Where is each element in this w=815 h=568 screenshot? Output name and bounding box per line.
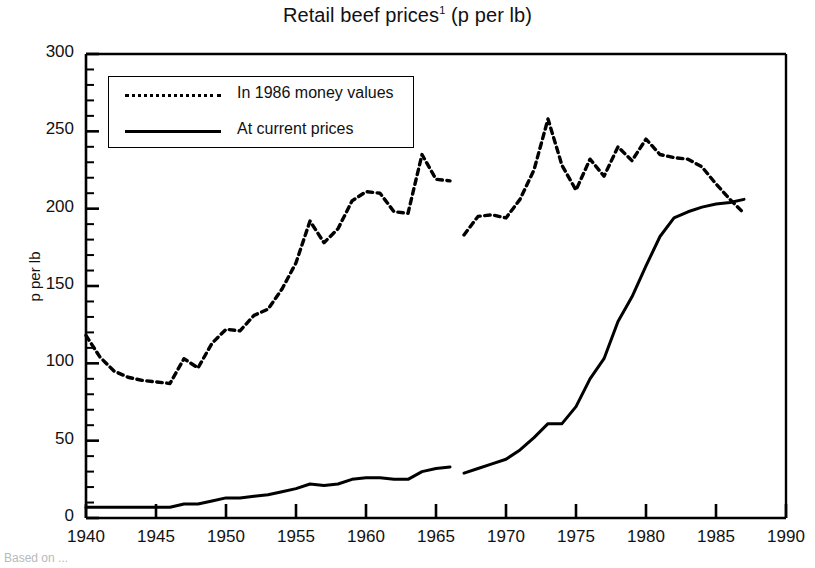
x-tick-label-1955: 1955 <box>261 527 331 547</box>
x-tick-label-1975: 1975 <box>541 527 611 547</box>
y-axis-ticks <box>86 54 99 518</box>
x-tick-label-1965: 1965 <box>401 527 471 547</box>
chart-title: Retail beef prices1 (p per lb) <box>0 4 815 27</box>
chart-legend: In 1986 money values At current prices <box>108 76 414 148</box>
series-0-segment-0 <box>86 155 450 384</box>
legend-label-1: At current prices <box>237 120 353 138</box>
footnote-text: Based on ... <box>4 551 68 565</box>
legend-swatch-dashed <box>125 94 221 97</box>
x-tick-label-1950: 1950 <box>191 527 261 547</box>
legend-label-0: In 1986 money values <box>237 84 394 102</box>
y-tick-label-50: 50 <box>6 429 74 449</box>
x-tick-label-1990: 1990 <box>751 527 815 547</box>
x-axis-ticks <box>86 504 786 518</box>
x-tick-label-1970: 1970 <box>471 527 541 547</box>
y-tick-label-0: 0 <box>6 506 74 526</box>
y-tick-label-250: 250 <box>6 119 74 139</box>
chart-title-main: Retail beef prices <box>283 4 439 26</box>
x-tick-label-1980: 1980 <box>611 527 681 547</box>
x-tick-label-1960: 1960 <box>331 527 401 547</box>
y-tick-label-100: 100 <box>6 351 74 371</box>
chart-title-suffix: (p per lb) <box>445 4 532 26</box>
legend-item-1: At current prices <box>109 113 413 149</box>
legend-swatch-solid <box>125 130 221 133</box>
series-0-segment-1 <box>464 119 744 235</box>
x-tick-label-1945: 1945 <box>121 527 191 547</box>
chart-figure: Retail beef prices1 (p per lb) p per lb … <box>0 0 815 568</box>
y-tick-label-300: 300 <box>6 42 74 62</box>
y-tick-label-150: 150 <box>6 274 74 294</box>
data-series-layer <box>86 119 744 507</box>
series-1-segment-1 <box>464 199 744 473</box>
series-1-segment-0 <box>86 467 450 507</box>
legend-item-0: In 1986 money values <box>109 77 413 113</box>
y-tick-label-200: 200 <box>6 197 74 217</box>
x-tick-label-1940: 1940 <box>51 527 121 547</box>
x-tick-label-1985: 1985 <box>681 527 751 547</box>
